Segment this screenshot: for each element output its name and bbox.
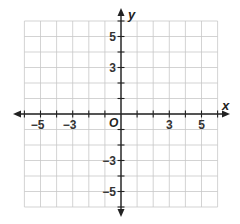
labels: x y O −5−33553−3−5 xyxy=(31,7,230,199)
x-tick-label: −3 xyxy=(63,118,77,132)
y-tick-label: 3 xyxy=(109,61,116,75)
y-axis-up-arrow-icon xyxy=(118,8,125,16)
x-tick-label: 5 xyxy=(198,118,205,132)
y-axis-down-arrow-icon xyxy=(118,209,125,217)
x-tick-label: −5 xyxy=(31,118,45,132)
y-tick-label: −3 xyxy=(102,154,116,168)
y-axis-label: y xyxy=(127,7,136,22)
y-tick-label: 5 xyxy=(109,30,116,44)
x-tick-label: 3 xyxy=(166,118,173,132)
origin-label: O xyxy=(109,116,119,130)
coordinate-plane: x y O −5−33553−3−5 xyxy=(0,0,240,224)
x-axis-left-arrow-icon xyxy=(13,111,21,118)
x-axis-label: x xyxy=(221,98,230,113)
axes xyxy=(13,8,230,217)
y-tick-label: −5 xyxy=(102,185,116,199)
